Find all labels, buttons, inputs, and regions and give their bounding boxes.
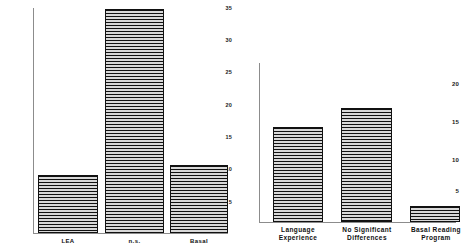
left-chart-x-axis (33, 233, 228, 234)
right-chart-y-axis (259, 63, 260, 223)
right-chart-ytick-15: 15 (433, 119, 459, 125)
right-chart-ytick-20: 20 (433, 81, 459, 87)
right-chart-ytick-5: 5 (433, 188, 459, 194)
left-chart-bar-ns (105, 9, 164, 233)
right-chart-ytick-10: 10 (433, 157, 459, 163)
right-chart-xlabel-basal-reading-program: Basal Reading Program (398, 226, 465, 242)
right-chart-xlabel-language-experience: Language Experience (260, 226, 336, 242)
right-chart-bar-language-experience (273, 127, 323, 222)
left-bar-chart: 35 30 25 20 15 10 5 LEA n.s. Basal (0, 0, 232, 252)
left-chart-xlabel-ns: n.s. (105, 238, 164, 246)
right-bar-chart: 20 15 10 5 Language Experience No Signif… (228, 0, 459, 252)
left-chart-bar-basal (170, 165, 228, 233)
left-chart-xlabel-lea: LEA (38, 238, 98, 246)
left-chart-bar-lea (38, 175, 98, 233)
right-chart-bar-basal-reading-program (410, 206, 460, 222)
right-chart-xlabel-no-significant-differences: No Significant Differences (329, 226, 405, 242)
right-chart-bar-no-significant-differences (341, 108, 392, 222)
left-chart-y-axis (33, 8, 34, 234)
left-chart-xlabel-basal: Basal (170, 238, 228, 246)
right-chart-x-axis (259, 222, 456, 223)
